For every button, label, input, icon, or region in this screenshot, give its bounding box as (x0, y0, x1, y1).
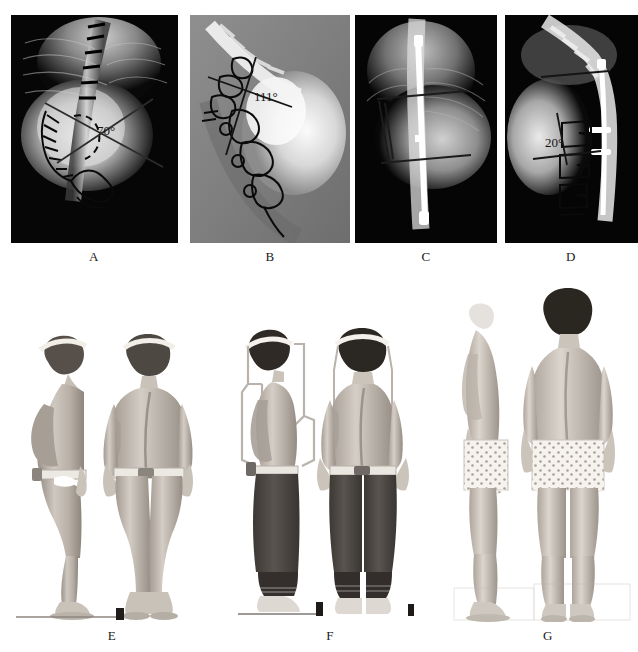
panel-b-radiograph: 111° (190, 15, 350, 243)
angle-value-b: 111° (254, 89, 278, 104)
panel-label-e: E (92, 628, 132, 644)
panel-c-radiograph (355, 15, 497, 243)
panel-f-clinical-photo (228, 320, 436, 622)
panel-label-d: D (551, 249, 591, 265)
panel-label-f: F (310, 628, 350, 644)
panel-e-clinical-photo (10, 326, 222, 622)
panel-label-b: B (250, 249, 290, 265)
angle-value-d: 20° (545, 135, 563, 150)
scale-marker (316, 602, 323, 616)
figure-container: 70° A (0, 0, 638, 652)
panel-label-g: G (528, 628, 568, 644)
panel-a-radiograph: 70° (11, 15, 178, 243)
pelvic-band (252, 466, 298, 474)
scale-marker (408, 604, 414, 616)
panel-label-c: C (406, 249, 446, 265)
scale-marker (116, 608, 124, 620)
panel-g-clinical-photo (448, 288, 638, 622)
trousers (253, 474, 300, 572)
angle-value-a: 70° (97, 123, 115, 138)
trousers (329, 475, 362, 572)
panel-d-radiograph: 20° (505, 15, 638, 243)
trousers (364, 475, 397, 572)
shorts (464, 440, 508, 490)
panel-label-a: A (74, 249, 114, 265)
